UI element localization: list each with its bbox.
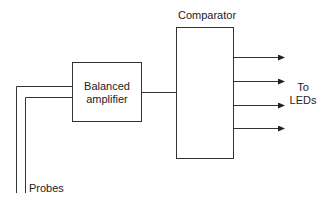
comparator-block	[177, 28, 234, 159]
probe-wire-2	[26, 98, 73, 194]
outputs-label-line-2: LEDs	[286, 94, 320, 107]
balanced-amplifier-label-line-1: Balanced	[72, 80, 142, 93]
outputs-label-line-1: To	[286, 81, 320, 94]
balanced-amplifier-label: Balanced amplifier	[72, 80, 142, 106]
probe-wire-1	[17, 87, 73, 194]
probes-label: Probes	[29, 182, 64, 195]
comparator-label: Comparator	[178, 9, 236, 22]
block-diagram	[0, 0, 326, 202]
balanced-amplifier-label-line-2: amplifier	[72, 93, 142, 106]
outputs-label: To LEDs	[286, 81, 320, 107]
